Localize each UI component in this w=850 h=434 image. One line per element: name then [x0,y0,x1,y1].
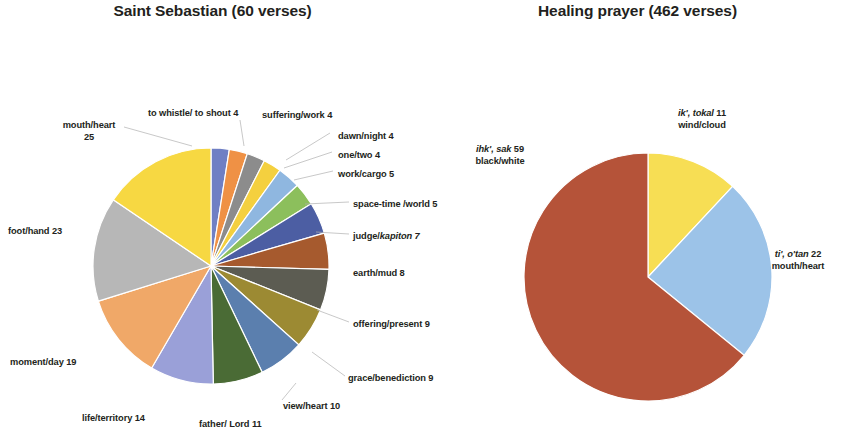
pie-saint-sebastian-svg: to whistle/ to shout 4suffering/work 4da… [91,146,331,386]
pie-slice-label-line: moment/day 19 [10,357,76,369]
pie-slice-label-line: mouth/heart [49,120,129,132]
pie-slice-label: life/territory 14 [82,413,145,425]
page-title-left: Saint Sebastian (60 verses) [0,2,425,20]
pie-slice-label: mouth/heart25 [49,120,129,143]
pie-healing-prayer-svg: ik', tokal — wind/cloud 11ti', o'tan — m… [522,151,774,403]
pie-slice-label: ik', tokal 11wind/cloud [663,108,741,131]
pie-slice-label-line: ik', tokal 11 [663,108,741,120]
pie-slice-label-line: dawn/night 4 [338,131,394,143]
pie-slice-label-line: work/cargo 5 [338,169,394,181]
pie-slice-label-line: 25 [49,132,129,144]
pie-slice-label: view/heart 10 [283,401,340,413]
pie-slice-label: judge/kapiton 7 [353,231,420,243]
pie-slice-label: dawn/night 4 [338,131,394,143]
pie-slice-label-line: earth/mud 8 [353,268,405,280]
pie-slice-label: moment/day 19 [10,357,76,369]
pie-slice-label: ti', o'tan 22mouth/heart [758,249,838,272]
pie-slice-label: one/two 4 [338,150,380,162]
pie-slice-label-line: father/ Lord 11 [199,419,262,431]
pie-slice-label-line: one/two 4 [338,150,380,162]
pie-slice-label-line: view/heart 10 [283,401,340,413]
pie-slice-label-line: ihk', sak 59 [460,144,540,156]
pie-slice-label: earth/mud 8 [353,268,405,280]
chart-panel-saint-sebastian: Saint Sebastian (60 verses) to whistle/ … [0,0,425,434]
pie-slice-label: work/cargo 5 [338,169,394,181]
page-title-right: Healing prayer (462 verses) [425,2,850,20]
pie-slice-label: foot/hand 23 [8,226,62,238]
pie-slice-label-line: life/territory 14 [82,413,145,425]
pie-slice-label-line: offering/present 9 [353,319,430,331]
pie-slice-label: suffering/work 4 [262,110,332,122]
pie-slice-label: ihk', sak 59black/white [460,144,540,167]
pie-slice-label: father/ Lord 11 [199,419,262,431]
pie-slice-label-line: black/white [460,156,540,168]
pie-chart-healing-prayer: ik', tokal — wind/cloud 11ti', o'tan — m… [522,151,774,403]
pie-chart-saint-sebastian: to whistle/ to shout 4suffering/work 4da… [91,146,331,386]
pie-slice-label: to whistle/ to shout 4 [148,108,238,120]
pie-slice-label-line: ti', o'tan 22 [758,249,838,261]
pie-slice-label-line: to whistle/ to shout 4 [148,108,238,120]
pie-slice-label-line: suffering/work 4 [262,110,332,122]
pie-slice-label-line: grace/benediction 9 [348,373,433,385]
pie-slice-label-line: judge/kapiton 7 [353,231,420,243]
pie-slice-label: grace/benediction 9 [348,373,433,385]
pie-slice-label: offering/present 9 [353,319,430,331]
pie-slice-label-line: wind/cloud [663,120,741,132]
pie-slice-label-line: foot/hand 23 [8,226,62,238]
pie-slice-label-line: mouth/heart [758,261,838,273]
